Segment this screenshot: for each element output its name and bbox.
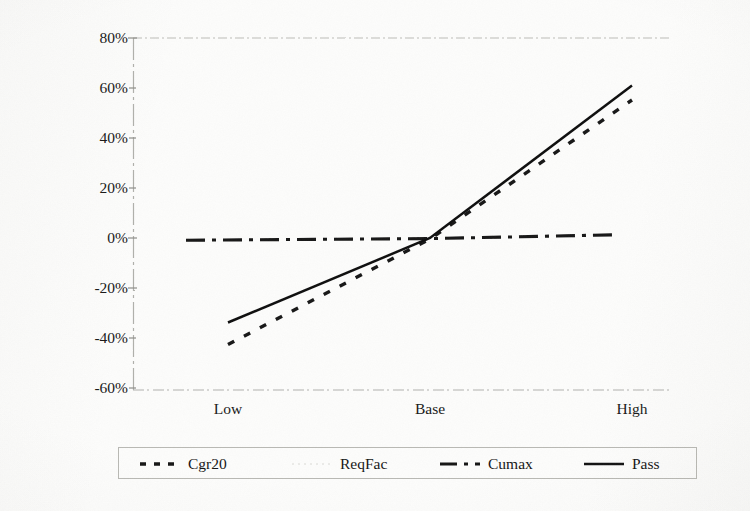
legend-entry-cgr20: Cgr20 [139, 448, 227, 480]
legend-swatch-solid-icon [583, 458, 625, 470]
chart-legend: Cgr20 ReqFac Cumax Pass [118, 447, 697, 479]
legend-swatch-dotted-faint-icon [291, 458, 333, 470]
y-axis-ticks [128, 38, 137, 388]
legend-label-pass: Pass [632, 456, 660, 472]
legend-label-reqfac: ReqFac [340, 456, 387, 472]
legend-entry-reqfac: ReqFac [291, 448, 387, 480]
legend-entry-cumax: Cumax [439, 448, 533, 480]
legend-entry-pass: Pass [583, 448, 660, 480]
legend-swatch-dash-dot-icon [439, 458, 481, 470]
legend-label-cgr20: Cgr20 [188, 456, 227, 472]
legend-swatch-dashed-icon [139, 458, 181, 470]
legend-label-cumax: Cumax [488, 456, 533, 472]
series-line-cgr20 [228, 100, 632, 345]
series-line-cumax [186, 235, 616, 240]
plot-area [0, 0, 750, 511]
sensitivity-chart-figure: % change in computed outpu 80% 60% 40% 2… [0, 0, 750, 511]
series-line-pass [228, 86, 632, 323]
